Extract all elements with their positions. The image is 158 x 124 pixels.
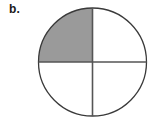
slice-upper-right (93, 8, 147, 62)
slice-upper-left (39, 8, 93, 62)
figure-container: b. (0, 0, 158, 124)
slice-lower-left (39, 62, 93, 116)
slice-lower-right (93, 62, 147, 116)
quadrant-circle-diagram (0, 0, 158, 124)
